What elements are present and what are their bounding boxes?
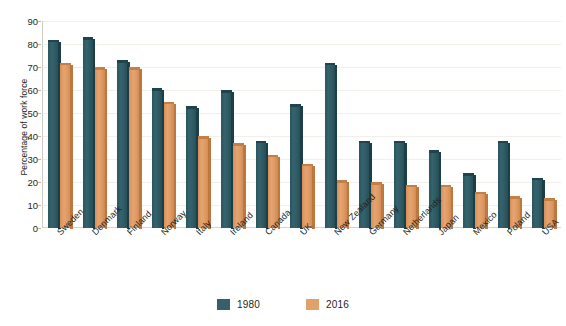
bar-face [463,175,474,228]
bar-2016-norway [164,104,175,228]
bar-face [152,90,163,228]
bar-1980-germany [359,143,370,228]
bar-face [198,138,209,228]
bar-1980-finland [117,62,128,228]
bar-top-cap [498,141,509,144]
y-axis-tick-labels: 0102030405060708090 [0,21,38,228]
bar-group [146,21,181,228]
bar-face [60,65,71,228]
bar-top-cap [544,198,555,201]
bar-face [83,39,94,228]
bar-top-cap [268,155,279,158]
bar-top-cap [152,88,163,91]
bar-1980-denmark [83,39,94,228]
bar-top-cap [221,90,232,93]
y-axis-tick-mark [38,159,41,160]
bar-top-cap [198,136,209,139]
y-axis-tick-mark [38,205,41,206]
bar-face [95,69,106,228]
bar-group [77,21,112,228]
y-axis-tick-mark [38,182,41,183]
bar-top-cap [406,185,417,188]
bar-side-edge [105,69,108,229]
y-axis-tick-label: 40 [4,131,38,142]
y-axis-tick-label: 80 [4,39,38,50]
bar-face [498,143,509,228]
bar-top-cap [510,196,521,199]
bar-2016-uk [302,166,313,228]
plot-area [42,21,561,228]
bar-group [526,21,561,228]
y-axis-tick-mark [38,67,41,68]
bar-top-cap [463,173,474,176]
chart-legend: 19802016 [0,299,566,310]
y-axis-tick-mark [38,21,41,22]
bar-face [117,62,128,228]
bar-face [186,108,197,228]
legend-item-2016: 2016 [306,299,349,310]
bar-side-edge [312,166,315,229]
bar-top-cap [117,60,128,63]
bar-top-cap [60,63,71,66]
bar-top-cap [186,106,197,109]
y-axis-tick-mark [38,136,41,137]
bar-2016-italy [198,138,209,228]
bar-chart: Percentage of work force 010203040506070… [0,0,566,326]
y-axis-tick-label: 0 [4,223,38,234]
y-axis-tick-mark [38,228,41,229]
bar-face [48,42,59,228]
bar-top-cap [129,67,140,70]
bar-group [111,21,146,228]
bar-1980-usa [532,180,543,228]
bar-face [221,92,232,228]
bar-face [290,106,301,228]
bar-top-cap [48,40,59,43]
y-axis-tick-label: 50 [4,108,38,119]
legend-label: 1980 [237,299,260,310]
bar-face [532,180,543,228]
bar-2016-denmark [95,69,106,228]
bar-2016-sweden [60,65,71,228]
bar-1980-poland [498,143,509,228]
y-axis-tick-label: 20 [4,177,38,188]
bar-1980-mexico [463,175,474,228]
bar-1980-canada [256,143,267,228]
bar-top-cap [164,102,175,105]
bar-top-cap [532,178,543,181]
bar-face [129,69,140,228]
bar-top-cap [95,67,106,70]
bar-face [325,65,336,228]
bar-group [284,21,319,228]
bar-top-cap [256,141,267,144]
legend-swatch-icon [306,299,319,310]
y-axis-tick-label: 30 [4,154,38,165]
y-axis-tick-label: 60 [4,85,38,96]
legend-label: 2016 [326,299,349,310]
x-axis-category-labels: SwedenDenmarkFinlandNorwayItalyIrelandCa… [42,230,561,292]
bar-side-edge [139,69,142,229]
bar-group [215,21,250,228]
y-axis-tick-label: 10 [4,200,38,211]
bar-group [388,21,423,228]
bar-top-cap [83,37,94,40]
bar-group [250,21,285,228]
bar-face [256,143,267,228]
bar-1980-italy [186,108,197,228]
y-axis-tick-mark [38,44,41,45]
bar-side-edge [208,138,211,229]
bar-face [359,143,370,228]
bar-2016-finland [129,69,140,228]
bar-top-cap [325,63,336,66]
bar-group [319,21,354,228]
bar-1980-uk [290,106,301,228]
bar-group [457,21,492,228]
bar-top-cap [359,141,370,144]
bar-group [423,21,458,228]
bar-top-cap [337,180,348,183]
bar-top-cap [429,150,440,153]
bars-layer [42,21,561,228]
bar-top-cap [475,192,486,195]
y-axis-tick-label: 70 [4,62,38,73]
bar-1980-new-zealand [325,65,336,228]
bar-top-cap [290,104,301,107]
